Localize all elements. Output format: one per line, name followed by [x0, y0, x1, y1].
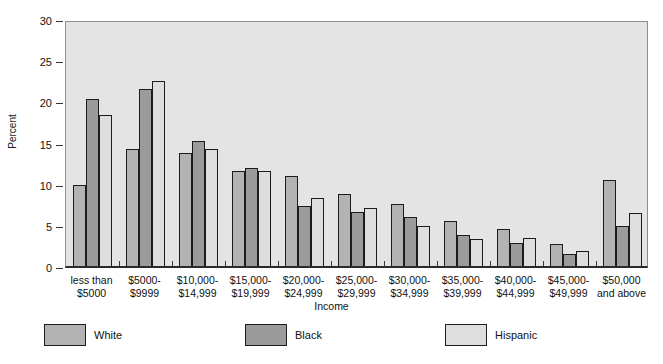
bar — [576, 251, 589, 266]
bar — [258, 171, 271, 266]
legend-label: Hispanic — [495, 329, 537, 341]
bar — [603, 180, 616, 266]
bar — [351, 212, 364, 266]
y-tick-label: 5 — [0, 221, 52, 233]
y-tick-mark — [56, 268, 63, 269]
group-separator — [278, 261, 279, 266]
group-separator — [490, 261, 491, 266]
bar — [126, 149, 139, 266]
bars-layer — [66, 22, 647, 266]
bar — [192, 141, 205, 266]
bar — [523, 238, 536, 266]
legend-swatch — [44, 324, 86, 346]
bar — [417, 226, 430, 266]
x-axis-title: Income — [0, 300, 663, 312]
x-group-label: $50,000and above — [589, 274, 654, 299]
group-separator — [543, 261, 544, 266]
legend-item-hispanic: Hispanic — [445, 322, 537, 348]
bar — [563, 254, 576, 266]
group-separator — [384, 261, 385, 266]
bar — [285, 176, 298, 266]
x-group-label-line: and above — [589, 287, 654, 300]
bar — [497, 229, 510, 266]
bar — [629, 213, 642, 266]
y-tick-mark — [56, 103, 63, 104]
legend-item-white: White — [44, 322, 122, 348]
legend-label: White — [94, 329, 122, 341]
bar — [99, 115, 112, 266]
group-separator — [225, 261, 226, 266]
y-tick-mark — [56, 186, 63, 187]
bar — [245, 168, 258, 266]
y-tick-mark — [56, 62, 63, 63]
bar-chart: Percent 051015202530 less than$5000$5000… — [0, 0, 663, 364]
group-separator — [172, 261, 173, 266]
x-group-label-line: $50,000 — [589, 274, 654, 287]
bar — [550, 244, 563, 266]
legend-swatch — [445, 324, 487, 346]
y-tick-label: 15 — [0, 139, 52, 151]
bar — [616, 226, 629, 266]
group-separator — [596, 261, 597, 266]
bar — [139, 89, 152, 266]
legend-item-black: Black — [245, 322, 322, 348]
bar — [205, 149, 218, 266]
bar — [86, 99, 99, 266]
bar — [152, 81, 165, 266]
bar — [404, 217, 417, 266]
y-tick-mark — [56, 227, 63, 228]
bar — [444, 221, 457, 266]
group-separator — [119, 261, 120, 266]
bar — [311, 198, 324, 266]
group-separator — [331, 261, 332, 266]
y-tick-label: 10 — [0, 180, 52, 192]
y-tick-mark — [56, 145, 63, 146]
bar — [470, 239, 483, 266]
y-tick-mark — [56, 21, 63, 22]
bar — [457, 235, 470, 266]
y-tick-label: 25 — [0, 56, 52, 68]
group-separator — [437, 261, 438, 266]
bar — [232, 171, 245, 267]
bar — [298, 206, 311, 266]
bar — [338, 194, 351, 266]
bar — [73, 185, 86, 266]
y-tick-label: 0 — [0, 262, 52, 274]
bar — [391, 204, 404, 266]
plot-area — [65, 21, 648, 268]
chart-legend: WhiteBlackHispanic — [0, 322, 663, 352]
y-tick-label: 20 — [0, 97, 52, 109]
bar — [364, 208, 377, 266]
y-tick-label: 30 — [0, 15, 52, 27]
bar — [510, 243, 523, 266]
legend-swatch — [245, 324, 287, 346]
legend-label: Black — [295, 329, 322, 341]
bar — [179, 153, 192, 266]
